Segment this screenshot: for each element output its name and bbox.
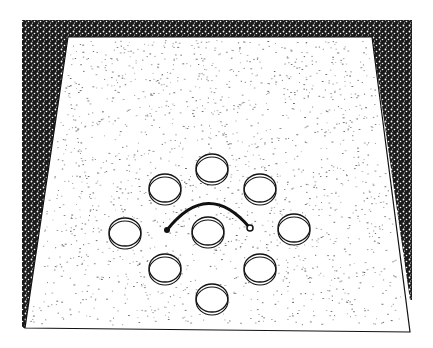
arc-end-left (164, 227, 170, 233)
well-center (191, 216, 225, 248)
well-right (277, 213, 311, 245)
well-top (195, 153, 229, 185)
arena-illustration: Stippled line illustration of an open fl… (0, 0, 433, 348)
arena-drawing (0, 0, 433, 348)
arc-end-right (247, 225, 253, 231)
well-lower-right (243, 253, 277, 285)
well-bottom (195, 283, 229, 315)
well-left (108, 217, 142, 249)
well-upper-left (148, 173, 182, 205)
well-upper-right (243, 173, 277, 205)
well-lower-left (148, 253, 182, 285)
